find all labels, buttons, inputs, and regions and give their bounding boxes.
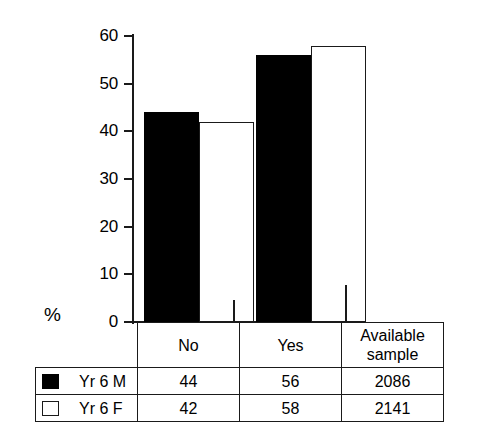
- bar-yes-yr-6-f: [311, 46, 366, 322]
- value-male-yes: 56: [240, 368, 342, 395]
- y-tick-mark-50: [124, 83, 133, 85]
- bar-no-yr-6-m: [144, 112, 199, 322]
- value-female-no: 42: [138, 395, 240, 422]
- y-tick-label-wrap-60: 60: [86, 27, 118, 44]
- value-female-available: 2141: [342, 395, 444, 422]
- table-header-row: No Yes Available sample: [36, 323, 444, 368]
- header-blank-cell: [36, 323, 138, 368]
- legend-cell-female: Yr 6 F: [36, 395, 138, 422]
- solid-black-swatch-icon: [42, 374, 59, 389]
- available-line-1: Available: [360, 327, 425, 344]
- bar-no-yr-6-f: [199, 122, 254, 322]
- y-tick-label-20: 20: [86, 218, 118, 235]
- value-female-yes: 58: [240, 395, 342, 422]
- y-tick-mark-60: [124, 35, 133, 37]
- series-label-female: Yr 6 F: [79, 399, 123, 418]
- plot-area: [133, 36, 365, 322]
- y-tick-label-40: 40: [86, 122, 118, 139]
- series-label-male: Yr 6 M: [79, 372, 126, 391]
- y-tick-label-50: 50: [86, 75, 118, 92]
- y-tick-label-30: 30: [86, 170, 118, 187]
- y-tick-mark-30: [124, 178, 133, 180]
- group-divider-1: [233, 300, 235, 323]
- available-line-2: sample: [367, 346, 419, 363]
- value-male-no: 44: [138, 368, 240, 395]
- y-tick-label-60: 60: [86, 27, 118, 44]
- bar-chart-figure: % 6050403020100 No Yes Available sample: [0, 0, 480, 443]
- y-tick-label-wrap-20: 20: [86, 218, 118, 235]
- y-tick-mark-20: [124, 226, 133, 228]
- header-available-sample: Available sample: [342, 323, 444, 368]
- value-male-available: 2086: [342, 368, 444, 395]
- y-tick-mark-40: [124, 130, 133, 132]
- y-tick-label-wrap-30: 30: [86, 170, 118, 187]
- data-table: No Yes Available sample Yr 6 M 44 56 208…: [35, 322, 444, 422]
- y-tick-label-10: 10: [86, 265, 118, 282]
- table-row: Yr 6 M 44 56 2086: [36, 368, 444, 395]
- hollow-white-swatch-icon: [42, 401, 59, 416]
- bar-yes-yr-6-m: [256, 55, 311, 322]
- y-tick-label-wrap-50: 50: [86, 75, 118, 92]
- y-tick-label-wrap-40: 40: [86, 122, 118, 139]
- header-category-no: No: [138, 323, 240, 368]
- y-tick-label-wrap-10: 10: [86, 265, 118, 282]
- group-divider-2: [345, 285, 347, 323]
- legend-cell-male: Yr 6 M: [36, 368, 138, 395]
- header-category-yes: Yes: [240, 323, 342, 368]
- table-row: Yr 6 F 42 58 2141: [36, 395, 444, 422]
- y-tick-mark-10: [124, 273, 133, 275]
